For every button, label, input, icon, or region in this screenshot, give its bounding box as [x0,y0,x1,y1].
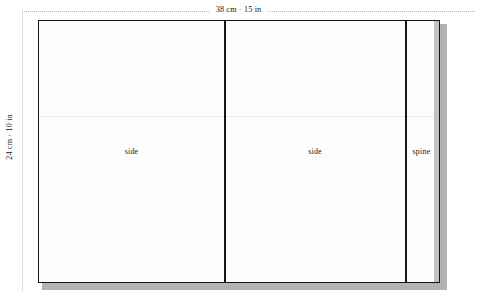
panel-label-side-left: side [125,147,139,156]
panel-side-left: side [39,21,224,282]
height-dimension-label: 24 cm · 10 in [4,101,16,173]
left-dimension-guide-line [22,11,24,291]
panel-side-right: side [225,21,405,282]
panel-label-spine: spine [413,147,431,156]
diagram-canvas: 38 cm · 15 in 24 cm · 10 in side side sp… [0,0,477,297]
panel-label-side-right: side [308,147,322,156]
width-dimension-label: 38 cm · 15 in [0,4,477,16]
width-dimension-text: 38 cm · 15 in [210,5,268,14]
height-dimension-text: 24 cm · 10 in [5,108,14,166]
book-cover-outline: side side spine [38,20,440,283]
panel-spine: spine [407,21,436,282]
